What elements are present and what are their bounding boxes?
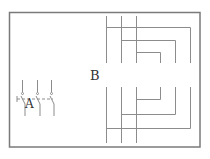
component-b-bottom: [107, 87, 191, 143]
diagram-canvas: A B: [0, 0, 210, 159]
label-b: B: [90, 69, 100, 82]
component-a-switch: [17, 80, 54, 116]
component-b-top: [107, 16, 191, 63]
schematic-drawing: [0, 0, 210, 159]
outer-frame: [10, 13, 201, 148]
label-a: A: [25, 98, 34, 110]
